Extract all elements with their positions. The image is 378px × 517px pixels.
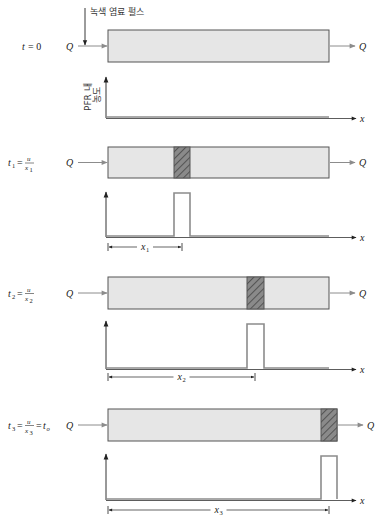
time-eq: = 0: [28, 41, 41, 52]
time-eq: =: [17, 157, 23, 168]
outlet-flow-label: Q: [359, 41, 367, 52]
y-axis-label: PFR 내농도: [83, 83, 102, 111]
fraction-denominator-sub: 2: [30, 297, 33, 304]
diagram-canvas: t= 0QQ녹색 염료 펄스xPFR 내농도t1=ux1QQxx1t2=ux2Q…: [0, 0, 378, 517]
time-label: t2=ux2: [8, 286, 34, 304]
y-axis-label-line2: 농도: [92, 87, 102, 103]
dye-pulse-band: [247, 277, 264, 309]
inlet-flow-label: Q: [66, 288, 74, 299]
fraction-denominator: x: [24, 295, 29, 303]
inlet-flow-label: Q: [66, 41, 74, 52]
distance-dimension-x2: x2: [108, 371, 255, 383]
outlet-flow-label: Q: [367, 420, 375, 431]
time-var: t: [8, 420, 11, 431]
panel-t3: t3=ux3=toQQxx3: [8, 409, 375, 516]
concentration-plot: xPFR 내농도: [83, 77, 365, 124]
dye-pulse-band: [174, 147, 190, 178]
time-eq: =: [17, 288, 23, 299]
pfr-reactor: [108, 409, 337, 441]
time-eq: =: [17, 420, 23, 431]
fraction-numerator: u: [27, 418, 31, 426]
fraction-denominator-sub: 3: [30, 429, 33, 436]
x-axis-label: x: [359, 113, 365, 124]
concentration-trace: [106, 324, 329, 368]
concentration-plot: xx1: [106, 192, 365, 253]
pfr-reactor: [108, 277, 329, 309]
concentration-trace: [106, 193, 329, 236]
fraction-numerator: u: [27, 286, 31, 294]
time-sub: 1: [12, 162, 15, 169]
time-var: t: [22, 41, 25, 52]
time-panels: t= 0QQ녹색 염료 펄스xPFR 내농도t1=ux1QQxx1t2=ux2Q…: [8, 6, 375, 516]
fraction-denominator: x: [24, 164, 29, 172]
outlet-flow-label: Q: [359, 157, 367, 168]
x-axis-label: x: [359, 495, 365, 506]
time-tail-sub: o: [47, 425, 51, 432]
distance-dimension-x3: x3: [108, 504, 329, 516]
time-label: t= 0: [22, 41, 41, 52]
dimension-label-sub: 2: [183, 376, 186, 383]
concentration-plot: xx3: [106, 454, 365, 516]
pfr-reactor: [108, 147, 329, 178]
x-axis-label: x: [359, 364, 365, 375]
time-eq-tail: =: [36, 420, 42, 431]
fraction-denominator-sub: 1: [30, 166, 33, 173]
time-label: t1=ux1: [8, 155, 34, 173]
fraction-numerator: u: [27, 155, 31, 163]
distance-dimension-x1: x1: [108, 241, 182, 253]
concentration-plot: xx2: [106, 321, 365, 383]
dye-pulse-band: [321, 409, 337, 441]
fraction-denominator: x: [24, 427, 29, 435]
time-var: t: [8, 288, 11, 299]
time-sub: 3: [12, 425, 15, 432]
panel-t1: t1=ux1QQxx1: [8, 147, 367, 253]
pfr-pulse-diagram: t= 0QQ녹색 염료 펄스xPFR 내농도t1=ux1QQxx1t2=ux2Q…: [0, 0, 378, 517]
dimension-label-sub: 1: [146, 246, 149, 253]
pulse-label: 녹색 염료 펄스: [90, 6, 144, 17]
outlet-flow-label: Q: [359, 288, 367, 299]
panel-t0: t= 0QQ녹색 염료 펄스xPFR 내농도: [22, 6, 367, 124]
time-var: t: [8, 157, 11, 168]
concentration-trace: [106, 456, 337, 499]
inlet-flow-label: Q: [66, 157, 74, 168]
pfr-reactor: [108, 30, 329, 62]
time-label: t3=ux3=to: [8, 418, 51, 436]
inlet-flow-label: Q: [66, 420, 74, 431]
panel-t2: t2=ux2QQxx2: [8, 277, 367, 383]
dimension-label-sub: 3: [220, 509, 223, 516]
time-sub: 2: [12, 293, 15, 300]
x-axis-label: x: [359, 232, 365, 243]
